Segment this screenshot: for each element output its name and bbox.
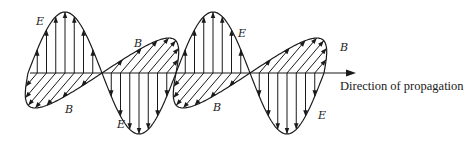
b-label-2: B [133, 37, 142, 50]
arrowhead-icon [285, 128, 290, 134]
e-label-1: E [35, 15, 44, 28]
b-label-4: B [339, 41, 348, 54]
em-wave-diagram: E B B E B E E B Direction of propagation [0, 0, 473, 141]
e-label-4: E [317, 109, 326, 122]
b-label-1: B [64, 103, 73, 116]
e-label-3: E [237, 27, 246, 40]
propagation-direction-label: Direction of propagation [340, 79, 464, 93]
e-label-2: E [116, 118, 125, 131]
arrowhead-icon [137, 128, 142, 134]
b-label-3: B [212, 101, 221, 114]
propagation-arrowhead-icon [346, 70, 356, 77]
arrowhead-icon [63, 12, 68, 18]
arrowhead-icon [211, 12, 216, 18]
